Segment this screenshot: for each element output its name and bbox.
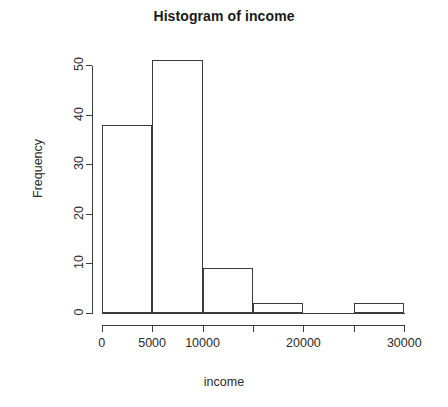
histogram-bar bbox=[153, 61, 202, 313]
histogram-bar bbox=[203, 269, 252, 313]
histogram-bar bbox=[102, 125, 151, 312]
bars-group bbox=[102, 61, 405, 314]
y-axis-title: Frequency bbox=[31, 148, 45, 198]
y-tick-label: 30 bbox=[72, 148, 86, 178]
y-tick-label: 0 bbox=[72, 297, 86, 327]
x-tick-label: 20000 bbox=[263, 336, 343, 350]
y-tick-label: 20 bbox=[72, 198, 86, 228]
x-tick-label: 10000 bbox=[163, 336, 243, 350]
y-tick-label: 40 bbox=[72, 99, 86, 129]
y-tick-label: 10 bbox=[72, 247, 86, 277]
histogram-chart: Histogram of income 01020304050 05000100… bbox=[0, 0, 448, 407]
y-tick-label: 50 bbox=[72, 49, 86, 79]
x-tick-label: 30000 bbox=[364, 336, 444, 350]
histogram-bar bbox=[254, 304, 303, 313]
x-axis-title: income bbox=[0, 375, 448, 389]
x-axis bbox=[102, 326, 405, 332]
y-axis bbox=[86, 66, 92, 314]
histogram-bar bbox=[354, 304, 403, 313]
